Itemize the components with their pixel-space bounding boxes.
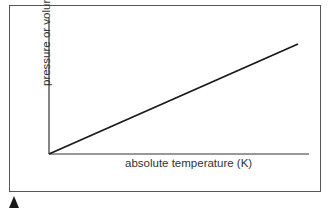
data-line: [49, 44, 298, 154]
y-axis-label: pressure or volume: [40, 0, 52, 86]
x-axis-label: absolute temperature (K): [125, 157, 252, 169]
triangle-marker-icon: [9, 196, 19, 208]
